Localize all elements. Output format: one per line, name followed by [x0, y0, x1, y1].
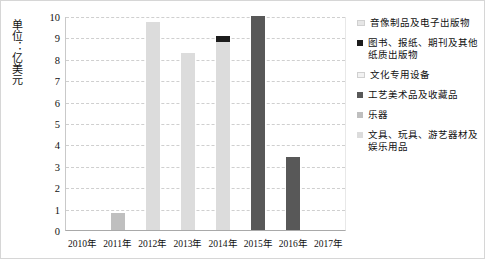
bars-layer [66, 17, 345, 230]
y-axis-tick: 9 [55, 33, 60, 44]
bar[interactable] [181, 53, 195, 230]
bar-segment[interactable] [251, 16, 265, 230]
bar-slot[interactable] [206, 17, 241, 230]
legend-swatch-icon [357, 20, 365, 26]
bar-slot[interactable] [101, 17, 136, 230]
x-axis-tick: 2016年 [276, 237, 311, 251]
legend-item[interactable]: 音像制品及电子出版物 [357, 17, 483, 29]
y-axis-tick: 6 [55, 97, 60, 108]
bar[interactable] [216, 36, 230, 230]
y-axis-tick: 10 [50, 12, 61, 23]
bar-segment[interactable] [111, 213, 125, 230]
legend-swatch-icon [357, 112, 363, 118]
legend-item[interactable]: 文化专用设备 [357, 69, 483, 81]
bar[interactable] [286, 157, 300, 230]
bar-segment[interactable] [181, 53, 195, 230]
legend-item[interactable]: 文具、玩具、游艺器材及娱乐用品 [357, 129, 483, 153]
bar-slot[interactable] [136, 17, 171, 230]
y-axis-tick: 7 [55, 76, 60, 87]
bar-segment[interactable] [216, 42, 230, 230]
legend-swatch-icon [357, 92, 363, 98]
bar-slot[interactable] [275, 17, 310, 230]
x-axis-tick: 2017年 [311, 237, 346, 251]
legend-label: 文化专用设备 [370, 69, 430, 81]
bar-segment[interactable] [146, 22, 160, 230]
bar-slot[interactable] [66, 17, 101, 230]
y-axis-tick: 2 [55, 183, 60, 194]
bar-slot[interactable] [310, 17, 345, 230]
y-axis-tick: 1 [55, 204, 60, 215]
x-axis-tick: 2011年 [100, 237, 135, 251]
bar-segment[interactable] [286, 157, 300, 230]
y-axis-tick: 4 [55, 140, 60, 151]
legend-label: 音像制品及电子出版物 [370, 17, 470, 29]
legend-label: 工艺美术品及收藏品 [368, 89, 458, 101]
y-axis-tick: 5 [55, 119, 60, 130]
bar-slot[interactable] [171, 17, 206, 230]
legend-swatch-icon [357, 40, 363, 46]
legend-item[interactable]: 图书、报纸、期刊及其他纸质出版物 [357, 37, 483, 61]
y-axis-tick: 8 [55, 54, 60, 65]
bar[interactable] [251, 16, 265, 230]
x-axis-tick: 2012年 [135, 237, 170, 251]
y-axis-title: 单位：亿美元 [3, 19, 23, 139]
plot-wrapper: 109876543210 [41, 17, 346, 233]
y-axis-tick-labels: 109876543210 [41, 17, 63, 233]
legend-swatch-icon [357, 72, 365, 78]
legend-label: 文具、玩具、游艺器材及娱乐用品 [368, 129, 483, 153]
plot-area [65, 17, 346, 231]
x-axis-tick: 2015年 [241, 237, 276, 251]
x-axis-tick-labels: 2010年2011年2012年2013年2014年2015年2016年2017年 [41, 237, 346, 255]
legend-swatch-icon [357, 132, 363, 138]
legend-label: 乐器 [368, 109, 388, 121]
bar[interactable] [111, 213, 125, 230]
x-axis-tick: 2010年 [65, 237, 100, 251]
legend-item[interactable]: 乐器 [357, 109, 483, 121]
chart-legend: 音像制品及电子出版物图书、报纸、期刊及其他纸质出版物文化专用设备工艺美术品及收藏… [357, 17, 483, 245]
x-axis-tick: 2013年 [170, 237, 205, 251]
x-axis-tick: 2014年 [206, 237, 241, 251]
legend-item[interactable]: 工艺美术品及收藏品 [357, 89, 483, 101]
bar-slot[interactable] [240, 17, 275, 230]
y-axis-tick: 3 [55, 161, 60, 172]
bar-chart: 单位：亿美元 109876543210 2010年2011年2012年2013年… [0, 0, 485, 259]
bar[interactable] [146, 22, 160, 230]
y-axis-tick: 0 [55, 226, 60, 237]
legend-label: 图书、报纸、期刊及其他纸质出版物 [368, 37, 483, 61]
